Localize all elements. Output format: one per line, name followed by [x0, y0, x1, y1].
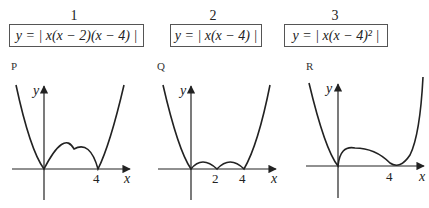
graph-q: y x 2 4: [158, 83, 278, 200]
graphs-canvas: y x 4 y x 2 4 y x 4: [0, 0, 429, 208]
tick-4: 4: [386, 169, 393, 184]
tick-2: 2: [212, 171, 219, 186]
x-axis-label: x: [270, 171, 278, 186]
x-axis-label: x: [123, 171, 131, 186]
y-axis-label: y: [324, 81, 333, 96]
tick-4: 4: [239, 171, 246, 186]
graph-p: y x 4: [12, 83, 131, 200]
graph-r: y x 4: [306, 77, 426, 198]
y-axis-label: y: [178, 83, 187, 98]
x-axis-label: x: [418, 169, 426, 184]
y-axis-label: y: [31, 83, 40, 98]
tick-4: 4: [93, 171, 100, 186]
